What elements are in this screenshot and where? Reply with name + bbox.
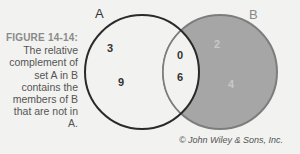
venn-diagram: A B 3 9 0 6 2 4 xyxy=(0,0,300,154)
intersection-element: 0 xyxy=(177,49,183,61)
set-b-element: 2 xyxy=(214,38,220,50)
set-a-element: 9 xyxy=(118,76,124,88)
set-b-element: 4 xyxy=(228,78,235,90)
set-a-element: 3 xyxy=(107,42,113,54)
set-b-label: B xyxy=(249,7,258,22)
intersection-element: 6 xyxy=(177,71,183,83)
copyright-notice: © John Wiley & Sons, Inc. xyxy=(179,135,283,145)
set-a-label: A xyxy=(95,6,104,21)
